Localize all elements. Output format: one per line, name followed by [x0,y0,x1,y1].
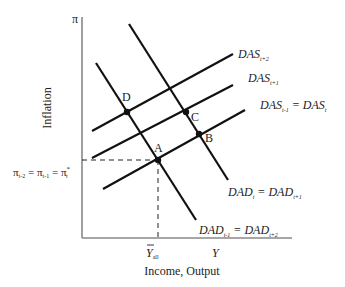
point-b-label: B [205,131,213,145]
das-t-plus-2-label: DASt+2 [237,47,269,62]
point-a [155,157,161,163]
point-c [183,109,189,115]
x-axis-symbol: Y [212,246,220,260]
point-d [124,109,130,115]
das-t-plus-1-label: DASt+1 [247,71,279,86]
dad-lower-curve [96,63,196,220]
point-b [196,131,202,137]
dad-lower-label: DADt-1 = DADt+2 [198,223,278,238]
dynamic-ad-as-diagram: A B C D π Inflation πt-2 = πt-1 = π*t DA… [0,0,345,287]
x-axis-label: Income, Output [144,264,220,278]
point-c-label: C [191,110,199,124]
inflation-target-label: πt-2 = πt-1 = π*t [13,165,70,179]
das-t-label: DASt-1 = DASt [259,98,327,113]
das-t-plus-2-curve [92,54,233,131]
y-axis-symbol: π [72,12,78,26]
point-a-label: A [154,141,163,155]
dad-upper-label: DADt = DADt+1 [227,185,302,200]
point-d-label: D [122,90,131,104]
das-t-curve [103,110,245,189]
y-axis-label: Inflation [40,87,54,128]
potential-output-label: Yall [146,246,159,260]
